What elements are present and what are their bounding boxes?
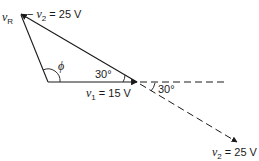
phasor-diagram: vR − v2 = 25 V ϕ 30° 30° v1 = 15 V v2 = … xyxy=(0,0,259,161)
outer-30-angle-arc xyxy=(151,83,155,91)
outer-angle-label: 30° xyxy=(158,83,175,95)
v2-phasor xyxy=(140,84,237,142)
vR-label: vR xyxy=(2,10,13,26)
inner-30-angle-arc xyxy=(123,75,125,82)
v2-label: v2 = 25 V xyxy=(212,145,258,161)
vR-phasor xyxy=(21,15,48,82)
neg-v2-phasor xyxy=(21,14,137,82)
phi-label: ϕ xyxy=(58,59,64,73)
neg-v2-label: − v2 = 25 V xyxy=(27,7,82,23)
v1-label: v1 = 15 V xyxy=(86,86,132,102)
inner-angle-label: 30° xyxy=(95,68,112,80)
